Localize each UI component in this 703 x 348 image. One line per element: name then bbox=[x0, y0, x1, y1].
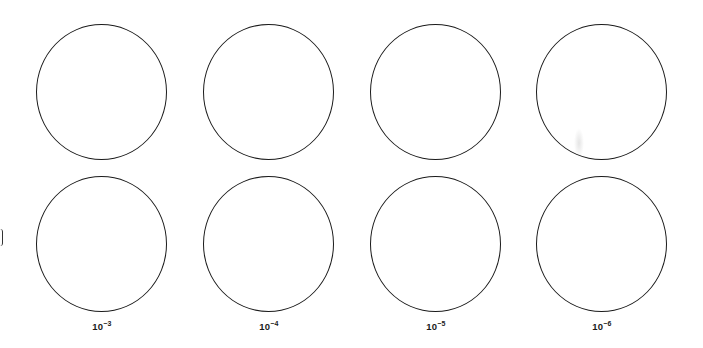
circle-row2-col3 bbox=[370, 176, 501, 312]
label-exponent: −4 bbox=[270, 320, 278, 327]
label-exponent: −6 bbox=[603, 320, 611, 327]
label-exponent: −3 bbox=[103, 320, 111, 327]
circle-row2-col4 bbox=[536, 176, 667, 312]
column-label-4: 10−6 bbox=[572, 321, 632, 332]
circle-row2-col2 bbox=[203, 176, 334, 312]
column-label-1: 10−3 bbox=[72, 321, 132, 332]
circle-row1-col1 bbox=[36, 24, 167, 160]
column-label-3: 10−5 bbox=[406, 321, 466, 332]
circle-row1-col3 bbox=[370, 24, 501, 160]
label-base: 10 bbox=[426, 321, 437, 332]
circle-row1-col2 bbox=[203, 24, 334, 160]
label-base: 10 bbox=[592, 321, 603, 332]
label-exponent: −5 bbox=[437, 320, 445, 327]
label-base: 10 bbox=[259, 321, 270, 332]
circle-row2-col1 bbox=[36, 176, 167, 312]
label-base: 10 bbox=[92, 321, 103, 332]
column-label-2: 10−4 bbox=[239, 321, 299, 332]
circle-row1-col4 bbox=[536, 24, 667, 160]
edge-arc-fragment bbox=[0, 229, 3, 246]
